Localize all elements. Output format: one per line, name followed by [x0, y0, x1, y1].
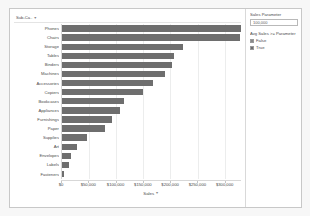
x-axis-title-label: Sales	[143, 191, 154, 196]
color-legend-title: Avg Sales >= Parameter	[250, 31, 298, 36]
bar-row	[62, 142, 241, 151]
x-axis: $0$50,000$100,000$150,000$200,000$250,00…	[14, 180, 241, 196]
bar[interactable]	[62, 116, 112, 122]
bar[interactable]	[62, 53, 174, 59]
axis-tick-label: $0	[59, 182, 64, 187]
plot-area: PhonesChairsStorageTablesBindersMachines…	[14, 24, 241, 179]
sort-descending-icon[interactable]: ▼	[34, 15, 38, 19]
axis-tick-label: $300,000	[216, 182, 233, 187]
parameter-card-title: Sales Parameter	[250, 12, 298, 17]
category-label[interactable]: Tables	[14, 51, 59, 60]
category-label[interactable]: Paper	[14, 124, 59, 133]
bar-row	[62, 170, 241, 179]
bar-row	[62, 124, 241, 133]
bar[interactable]	[62, 107, 120, 113]
bar[interactable]	[62, 153, 71, 159]
parameter-card: Sales Parameter 100,000	[250, 12, 298, 26]
category-label[interactable]: Furnishings	[14, 115, 59, 124]
sales-parameter-value: 100,000	[253, 20, 267, 25]
bar-row	[62, 106, 241, 115]
bar-row	[62, 51, 241, 60]
bar-row	[62, 69, 241, 78]
field-header-row: Sub-Ca.. ▼	[14, 13, 241, 23]
bar[interactable]	[62, 34, 240, 40]
bar-row	[62, 79, 241, 88]
bar-row	[62, 24, 241, 33]
bar[interactable]	[62, 44, 183, 50]
cards-pane: Sales Parameter 100,000 Avg Sales >= Par…	[245, 9, 301, 207]
bar[interactable]	[62, 125, 105, 131]
bar-row	[62, 151, 241, 160]
tableau-worksheet: Sub-Ca.. ▼ PhonesChairsStorageTablesBind…	[0, 0, 310, 216]
axis-tick-label: $100,000	[107, 182, 124, 187]
legend-label: False	[256, 38, 266, 43]
category-label[interactable]: Phones	[14, 24, 59, 33]
legend-swatch	[250, 46, 254, 50]
axis-ticks[interactable]: $0$50,000$100,000$150,000$200,000$250,00…	[61, 180, 241, 190]
category-label[interactable]: Accessories	[14, 79, 59, 88]
legend-item[interactable]: True	[250, 44, 298, 51]
axis-tick-label: $200,000	[161, 182, 178, 187]
bar-row	[62, 160, 241, 169]
bar-row	[62, 88, 241, 97]
axis-left-pad	[14, 180, 61, 196]
color-legend-card: Avg Sales >= Parameter FalseTrue	[250, 31, 298, 52]
category-axis: PhonesChairsStorageTablesBindersMachines…	[14, 24, 61, 179]
axis-tick-label: $250,000	[189, 182, 206, 187]
bar-row	[62, 42, 241, 51]
bar[interactable]	[62, 71, 165, 77]
bar[interactable]	[62, 134, 87, 140]
bar-row	[62, 133, 241, 142]
row-field-header-sub-category[interactable]: Sub-Ca.. ▼	[14, 15, 61, 20]
category-label[interactable]: Envelopes	[14, 151, 59, 160]
bar[interactable]	[62, 25, 241, 31]
axis-scale: $0$50,000$100,000$150,000$200,000$250,00…	[61, 180, 241, 196]
worksheet-frame: Sub-Ca.. ▼ PhonesChairsStorageTablesBind…	[9, 8, 302, 208]
category-label[interactable]: Binders	[14, 60, 59, 69]
bar-row	[62, 33, 241, 42]
category-label[interactable]: Fasteners	[14, 170, 59, 179]
category-label[interactable]: Appliances	[14, 106, 59, 115]
bar[interactable]	[62, 171, 64, 177]
category-label[interactable]: Storage	[14, 42, 59, 51]
x-axis-title[interactable]: Sales ▼	[61, 191, 241, 196]
bar[interactable]	[62, 98, 124, 104]
category-label[interactable]: Labels	[14, 160, 59, 169]
category-label[interactable]: Bookcases	[14, 97, 59, 106]
category-label[interactable]: Copiers	[14, 88, 59, 97]
bar-row	[62, 97, 241, 106]
bar[interactable]	[62, 162, 69, 168]
axis-tick-label: $50,000	[81, 182, 96, 187]
viz-pane: Sub-Ca.. ▼ PhonesChairsStorageTablesBind…	[10, 9, 245, 207]
legend-item[interactable]: False	[250, 37, 298, 44]
category-label[interactable]: Chairs	[14, 33, 59, 42]
bar-row	[62, 115, 241, 124]
category-label[interactable]: Supplies	[14, 133, 59, 142]
legend-swatch	[250, 39, 254, 43]
legend-label: True	[256, 45, 264, 50]
row-field-header-label: Sub-Ca..	[16, 15, 33, 20]
bars-container	[61, 24, 241, 179]
bar[interactable]	[62, 80, 153, 86]
color-legend-items: FalseTrue	[250, 37, 298, 51]
axis-sort-icon[interactable]: ▼	[155, 191, 159, 195]
bar[interactable]	[62, 144, 77, 150]
axis-tick-label: $150,000	[134, 182, 151, 187]
bar[interactable]	[62, 89, 143, 95]
sales-parameter-input[interactable]: 100,000	[250, 19, 298, 26]
bar[interactable]	[62, 62, 172, 68]
bar-row	[62, 60, 241, 69]
category-label[interactable]: Machines	[14, 69, 59, 78]
category-label[interactable]: Art	[14, 142, 59, 151]
